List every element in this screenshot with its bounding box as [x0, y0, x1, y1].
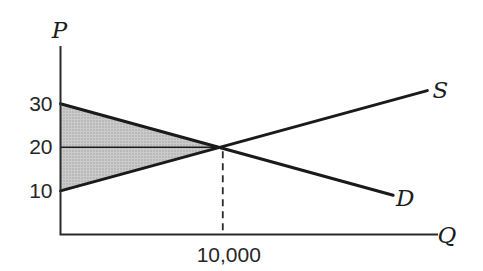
supply-curve-label: S — [432, 77, 448, 103]
y-tick-label-30: 30 — [29, 92, 52, 115]
y-axis-label: P — [51, 17, 68, 43]
demand-curve-label: D — [395, 185, 414, 211]
x-axis-tick-labels: 10,000 — [197, 243, 261, 266]
x-tick-label-10000: 10,000 — [197, 243, 261, 266]
y-tick-label-10: 10 — [29, 179, 52, 202]
x-axis-label: Q — [438, 222, 457, 248]
supply-demand-figure: P Q S D 302010 10,000 — [0, 0, 483, 271]
y-tick-label-20: 20 — [29, 135, 52, 158]
supply-demand-chart: P Q S D 302010 10,000 — [0, 0, 483, 271]
y-axis-tick-labels: 302010 — [29, 92, 52, 202]
